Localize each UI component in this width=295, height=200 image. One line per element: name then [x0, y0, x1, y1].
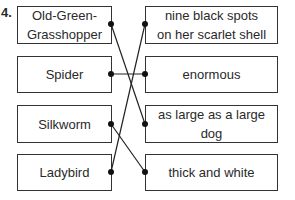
match-lines — [0, 0, 295, 200]
